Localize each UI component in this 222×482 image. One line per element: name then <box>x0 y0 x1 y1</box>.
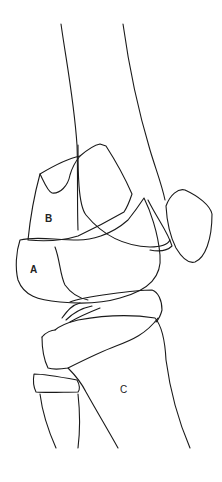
splint-bone-cap <box>33 374 79 392</box>
label-b: B <box>45 213 52 224</box>
bone-c-top-joint <box>42 318 158 369</box>
label-a: A <box>30 264 37 275</box>
bone-b-notch <box>40 156 80 193</box>
accessory-bone-outline <box>166 190 212 263</box>
bone-drawing <box>0 0 222 482</box>
shaft-left-line <box>61 24 78 230</box>
bone-a-inner-curve <box>55 247 88 300</box>
bone-c-left-edge <box>42 330 55 337</box>
shaft-right-line <box>123 24 165 200</box>
label-c: C <box>120 384 127 395</box>
bone-a-outline <box>16 198 160 303</box>
splint-bone-shaft <box>40 394 80 448</box>
bone-c-outline <box>55 316 190 448</box>
